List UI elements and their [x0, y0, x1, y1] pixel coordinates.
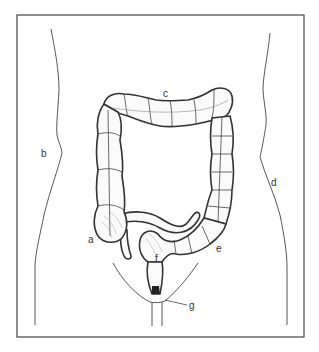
- ileum: [122, 212, 200, 233]
- label-b: b: [41, 148, 47, 159]
- rectum-fill: [152, 286, 160, 294]
- left-body-outline: [35, 29, 62, 325]
- label-c: c: [163, 88, 168, 99]
- colon-diagram: a b c d e f g: [0, 0, 319, 352]
- label-g: g: [189, 300, 195, 311]
- label-d: d: [271, 177, 277, 188]
- label-e: e: [216, 243, 222, 254]
- label-f: f: [155, 253, 158, 264]
- label-g-leader: [165, 300, 187, 305]
- ascending-colon: [94, 104, 127, 242]
- label-a: a: [88, 234, 94, 245]
